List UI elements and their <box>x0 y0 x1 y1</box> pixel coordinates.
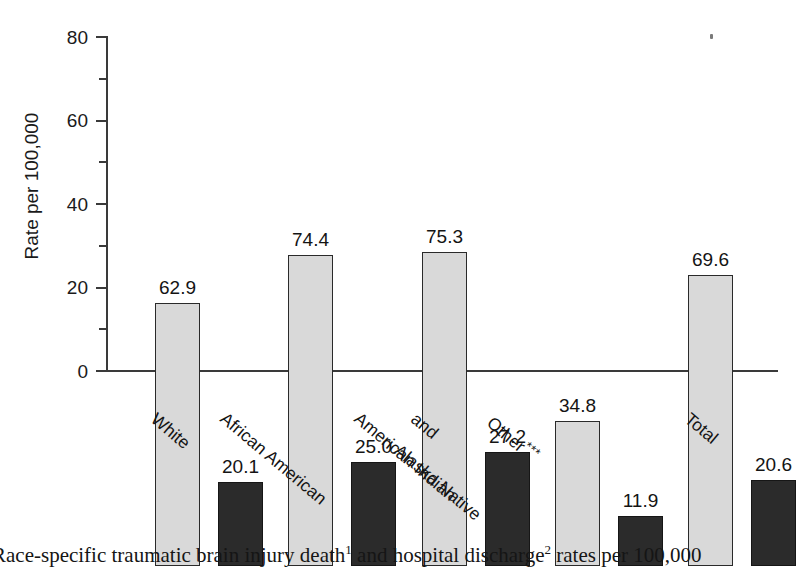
caption-prefix: Race-specific traumatic brain injury dea… <box>0 543 345 567</box>
y-tick-label-0: 0 <box>48 362 88 381</box>
bar-value-african-american-discharge: 74.4 <box>292 230 329 249</box>
y-axis-title: Rate per 100,000 <box>21 36 43 336</box>
y-tick-label-60: 60 <box>48 111 88 130</box>
bar-group-other: 34.8 11.9 <box>555 232 665 566</box>
bar-value-white-discharge: 62.9 <box>159 278 196 297</box>
scan-artifact <box>710 34 713 39</box>
y-tick-major-60 <box>96 120 107 122</box>
caption-suffix: rates per 100,000 <box>551 543 701 567</box>
figure-caption: Race-specific traumatic brain injury dea… <box>0 538 799 567</box>
bar-value-total-discharge: 69.6 <box>692 250 729 269</box>
y-tick-minor-30 <box>99 245 107 247</box>
y-tick-minor-50 <box>99 161 107 163</box>
bar-african-american-discharge[interactable]: 74.4 <box>288 255 333 566</box>
y-tick-minor-70 <box>99 78 107 80</box>
y-tick-label-20: 20 <box>48 278 88 297</box>
y-tick-major-0 <box>96 370 107 372</box>
bar-value-american-indian-discharge: 75.3 <box>426 227 463 246</box>
caption-middle: and hospital discharge <box>352 543 545 567</box>
y-tick-major-40 <box>96 203 107 205</box>
bar-value-other-death: 11.9 <box>623 491 659 510</box>
y-tick-label-40: 40 <box>48 195 88 214</box>
y-tick-minor-10 <box>99 328 107 330</box>
bar-value-other-discharge: 34.8 <box>559 396 596 415</box>
y-tick-label-80: 80 <box>48 28 88 47</box>
bar-value-total-death: 20.6 <box>755 455 792 474</box>
y-tick-major-80 <box>96 36 107 38</box>
y-tick-major-20 <box>96 287 107 289</box>
